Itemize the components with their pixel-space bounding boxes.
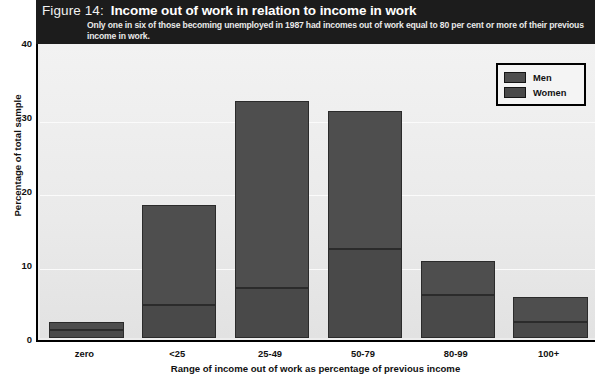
x-tick-label: zero	[38, 348, 131, 359]
figure-container: Figure 14: Income out of work in relatio…	[0, 0, 595, 380]
bar-group	[328, 111, 402, 338]
legend: Men Women	[496, 63, 586, 106]
figure-header-band: Figure 14: Income out of work in relatio…	[36, 0, 595, 44]
bar-segment-men	[142, 205, 216, 305]
x-tick-label: 25-49	[224, 348, 317, 359]
bar-segment-men	[513, 297, 587, 321]
bar-group	[235, 101, 309, 338]
bar-segment-men	[49, 322, 123, 329]
x-tick-label: 80-99	[409, 348, 502, 359]
bar-group	[421, 261, 495, 338]
page-title: Income out of work in relation to income…	[111, 4, 417, 18]
bar-segment-men	[235, 101, 309, 287]
legend-label-women: Women	[533, 88, 566, 98]
figure-title-line: Figure 14: Income out of work in relatio…	[42, 4, 589, 18]
bar-segment-women	[49, 330, 123, 338]
legend-swatch-women	[504, 87, 526, 98]
bar-group	[142, 205, 216, 338]
legend-item-men: Men	[504, 72, 578, 83]
y-axis-label: Percentage of total sample	[12, 61, 23, 251]
figure-subtitle: Only one in six of those becoming unempl…	[87, 20, 587, 41]
bar-group	[49, 322, 123, 338]
y-tick-label: 40	[2, 38, 32, 49]
bar-group	[513, 297, 587, 338]
bar-segment-men	[421, 261, 495, 295]
bar-segment-men	[328, 111, 402, 249]
x-tick-label: 50-79	[317, 348, 410, 359]
x-tick-label: 100+	[502, 348, 595, 359]
bar-segment-women	[513, 322, 587, 338]
y-tick-label: 0	[2, 334, 32, 345]
legend-item-women: Women	[504, 87, 578, 98]
legend-swatch-men	[504, 72, 526, 83]
bar-segment-women	[421, 295, 495, 338]
bar-segment-women	[235, 288, 309, 338]
bar-segment-women	[142, 305, 216, 338]
bar-segment-women	[328, 249, 402, 338]
x-axis-label: Range of income out of work as percentag…	[36, 363, 595, 374]
y-tick-label: 10	[2, 260, 32, 271]
figure-number-label: Figure 14:	[42, 4, 104, 18]
legend-label-men: Men	[533, 73, 552, 83]
x-tick-label: <25	[131, 348, 224, 359]
